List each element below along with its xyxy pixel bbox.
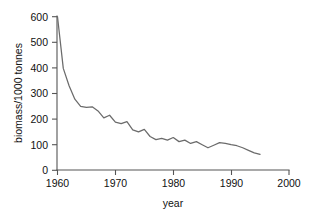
y-tick-marks: [52, 17, 57, 171]
y-tick-label-500: 500: [30, 36, 48, 48]
chart-figure: 600 500 400 300 200 100 0 1960 1970 1980…: [0, 0, 320, 216]
x-tick-marks: [58, 170, 290, 175]
x-tick-label-1970: 1970: [104, 177, 128, 189]
y-tick-label-200: 200: [30, 113, 48, 125]
x-tick-label-1980: 1980: [162, 177, 186, 189]
x-tick-label-1960: 1960: [46, 177, 70, 189]
y-tick-label-400: 400: [30, 62, 48, 74]
y-tick-label-600: 600: [30, 11, 48, 23]
x-axis-title: year: [163, 197, 184, 209]
biomass-series-line: [58, 17, 261, 155]
y-tick-label-100: 100: [30, 139, 48, 151]
y-tick-label-0: 0: [42, 164, 48, 176]
x-tick-label-2000: 2000: [277, 177, 301, 189]
biomass-line-chart: 600 500 400 300 200 100 0 1960 1970 1980…: [0, 0, 320, 216]
y-tick-label-300: 300: [30, 87, 48, 99]
y-axis-title: biomass/1000 tonnes: [12, 43, 24, 143]
x-tick-label-1990: 1990: [220, 177, 244, 189]
